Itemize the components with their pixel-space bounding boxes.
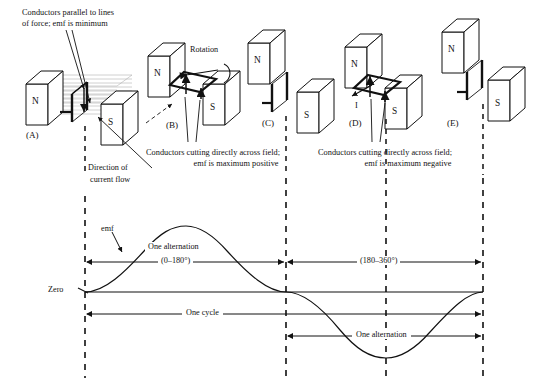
magnet-south-b <box>203 71 240 125</box>
position-label-b: (B) <box>166 120 178 130</box>
position-label-a: (A) <box>26 130 39 140</box>
waveform-plot <box>78 226 483 358</box>
magnet-south-d <box>385 75 422 129</box>
label-direction-line1: Direction of <box>88 163 128 172</box>
label-one-alternation-second: One alternation <box>352 330 411 339</box>
label-degrees-second: (180–360°) <box>357 256 400 265</box>
label-emf: emf <box>101 224 114 233</box>
pole-label-s-d: S <box>392 106 397 116</box>
pole-label-n-d: N <box>351 59 358 69</box>
label-degrees-first: (0–180°) <box>158 256 193 265</box>
pole-label-s-a: S <box>108 117 113 127</box>
leader-lines-caption-b <box>185 97 200 142</box>
caption-conductors-parallel-line1: Conductors parallel to lines <box>22 8 114 18</box>
magnet-assembly-b <box>148 43 240 125</box>
label-direction-line2: current flow <box>90 175 130 184</box>
caption-max-positive-line1: Conductors cutting directly across field… <box>146 148 280 158</box>
label-one-alternation-first: One alternation <box>145 242 202 251</box>
caption-max-negative-line2: emf is maximum negative <box>318 159 498 169</box>
magnet-south-c <box>297 79 334 133</box>
position-label-e: (E) <box>447 118 459 128</box>
leader-lines-caption-d <box>371 99 385 142</box>
caption-max-positive-line2: emf is maximum positive <box>146 159 326 169</box>
magnet-assembly-a <box>26 71 138 175</box>
caption-conductors-parallel-line2: of force; emf is minimum <box>22 19 108 29</box>
pole-label-s-e: S <box>495 98 500 108</box>
pole-label-n-c: N <box>254 55 261 65</box>
position-label-d: (D) <box>349 118 362 128</box>
dashed-guides-waveform <box>85 178 483 378</box>
magnet-assembly-e <box>442 19 525 175</box>
caption-max-negative-line1: Conductors cutting directly across field… <box>318 148 452 158</box>
pole-label-n-e: N <box>448 44 455 54</box>
zero-tick <box>78 288 88 293</box>
figure-vector-layer <box>0 0 542 389</box>
magnet-south-e <box>488 67 525 121</box>
pole-label-s-c: S <box>304 110 309 120</box>
pole-label-n-b: N <box>154 68 161 78</box>
pole-label-n-a: N <box>32 96 39 106</box>
label-one-cycle: One cycle <box>182 308 223 317</box>
label-current-i-d: I <box>355 101 358 110</box>
emf-pointer-arrow <box>112 232 122 252</box>
position-label-c: (C) <box>262 118 274 128</box>
pole-label-s-b: S <box>210 102 215 112</box>
label-zero: Zero <box>48 285 63 294</box>
label-rotation: Rotation <box>190 45 218 54</box>
ac-generator-figure: Conductors parallel to lines of force; e… <box>0 0 542 389</box>
